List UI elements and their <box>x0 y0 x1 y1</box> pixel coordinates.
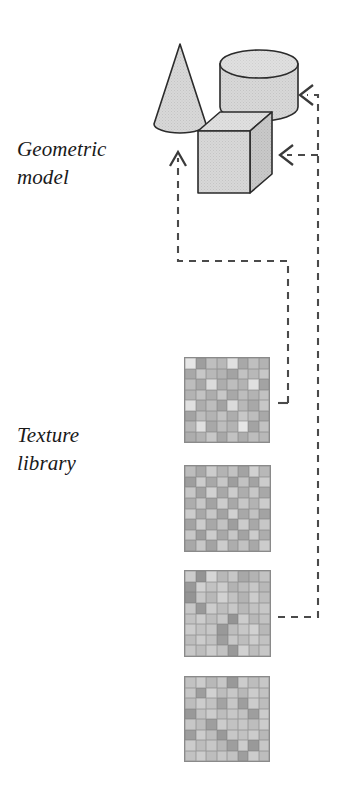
texture-cell <box>259 677 270 688</box>
geometric-shapes-layer <box>0 0 341 804</box>
texture-cell <box>217 582 228 593</box>
texture-cell <box>248 411 259 422</box>
texture-cell <box>206 421 217 432</box>
texture-cell <box>259 432 270 443</box>
texture-cell <box>196 614 207 625</box>
texture-cell <box>206 624 217 635</box>
texture-tile-1[interactable] <box>184 357 270 443</box>
texture-cell <box>196 411 207 422</box>
texture-cell <box>259 379 270 390</box>
texture-cell <box>185 540 196 551</box>
texture-cell <box>206 530 217 541</box>
texture-cell <box>227 390 238 401</box>
texture-cell <box>196 571 207 582</box>
texture-tile-2[interactable] <box>184 465 271 552</box>
texture-cell <box>217 730 228 741</box>
texture-cell <box>249 540 260 551</box>
texture-cell <box>228 498 239 509</box>
texture-cell <box>217 751 228 762</box>
texture-cell <box>248 390 259 401</box>
texture-cell <box>238 498 249 509</box>
texture-cell <box>185 390 196 401</box>
texture-cell <box>249 530 260 541</box>
texture-cell <box>249 466 260 477</box>
texture-cell <box>185 369 196 380</box>
texture-cell <box>185 614 196 625</box>
texture-cell <box>238 519 249 530</box>
texture-cell <box>248 751 259 762</box>
texture-cell <box>206 379 217 390</box>
texture-cell <box>217 530 228 541</box>
texture-cell <box>259 645 270 656</box>
texture-cell <box>196 379 207 390</box>
texture-cell <box>217 487 228 498</box>
texture-cell <box>185 592 196 603</box>
texture-cell <box>248 719 259 730</box>
texture-cell <box>259 400 270 411</box>
texture-cell <box>249 498 260 509</box>
texture-cell <box>196 677 207 688</box>
texture-cell <box>259 592 270 603</box>
texture-cell <box>249 592 260 603</box>
texture-cell <box>185 740 196 751</box>
texture-cell <box>259 421 270 432</box>
texture-cell <box>185 582 196 593</box>
texture-cell <box>217 571 228 582</box>
texture-cell <box>206 519 217 530</box>
texture-cell <box>196 432 207 443</box>
texture-tile-4[interactable] <box>184 676 270 762</box>
texture-cell <box>259 540 270 551</box>
texture-cell <box>238 509 249 520</box>
texture-cell <box>217 603 228 614</box>
texture-cell <box>238 390 249 401</box>
texture-cell <box>238 432 249 443</box>
texture-cell <box>227 421 238 432</box>
texture-cell <box>196 592 207 603</box>
texture-cell <box>185 432 196 443</box>
texture-cell <box>248 358 259 369</box>
texture-cell <box>227 400 238 411</box>
texture-cell <box>227 709 238 720</box>
texture-cell <box>248 400 259 411</box>
texture-cell <box>228 509 239 520</box>
texture-cell <box>217 466 228 477</box>
texture-cell <box>259 635 270 646</box>
texture-cell <box>238 677 249 688</box>
texture-cell <box>217 709 228 720</box>
texture-cell <box>206 477 217 488</box>
texture-cell <box>228 603 239 614</box>
texture-cell <box>259 698 270 709</box>
texture-cell <box>196 540 207 551</box>
texture-cell <box>238 614 249 625</box>
texture-cell <box>248 369 259 380</box>
texture-cell <box>206 358 217 369</box>
texture-cell <box>259 519 270 530</box>
texture-cell <box>248 688 259 699</box>
texture-cell <box>185 358 196 369</box>
texture-cell <box>228 645 239 656</box>
texture-cell <box>206 390 217 401</box>
texture-cell <box>249 614 260 625</box>
texture-cell <box>196 530 207 541</box>
texture-cell <box>259 740 270 751</box>
texture-cell <box>185 635 196 646</box>
texture-cell <box>206 719 217 730</box>
texture-cell <box>248 432 259 443</box>
texture-cell <box>249 487 260 498</box>
texture-cell <box>206 677 217 688</box>
texture-cell <box>185 709 196 720</box>
texture-cell <box>217 645 228 656</box>
texture-tile-3[interactable] <box>184 570 271 657</box>
texture-cell <box>185 530 196 541</box>
texture-cell <box>259 688 270 699</box>
texture-cell <box>206 369 217 380</box>
texture-cell <box>217 624 228 635</box>
texture-cell <box>259 466 270 477</box>
texture-cell <box>238 530 249 541</box>
texture-cell <box>238 624 249 635</box>
texture-cell <box>185 730 196 741</box>
texture-cell <box>206 603 217 614</box>
texture-cell <box>196 709 207 720</box>
texture-cell <box>196 603 207 614</box>
texture-cell <box>259 487 270 498</box>
